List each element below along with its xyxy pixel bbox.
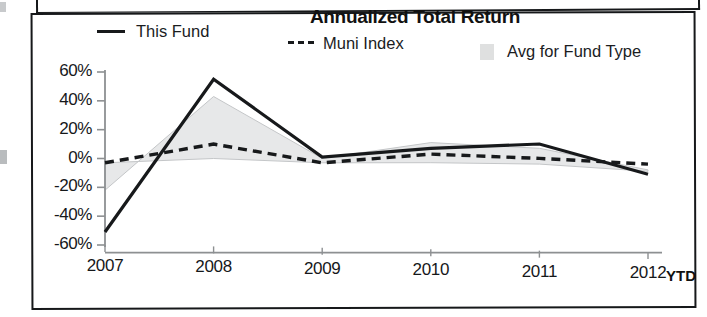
y-tick-label: 60% (30, 61, 92, 81)
y-tick-label: -40% (30, 205, 92, 225)
y-tick-label: 20% (30, 119, 92, 139)
series-avg-for-fund-type-band (105, 97, 648, 191)
x-tick-label: 2010 (394, 260, 468, 280)
x-tick-label: 2007 (68, 256, 142, 276)
y-tick-label: 0% (30, 148, 92, 168)
y-tick-label: 40% (30, 90, 92, 110)
x-tick-label: 2011 (502, 262, 576, 282)
x-tick-label: 2009 (285, 259, 359, 279)
y-tick-label: -60% (30, 234, 92, 254)
x-tick-label: 2008 (177, 257, 251, 277)
chart-screenshot: Annualized Total Return This Fund Muni I… (0, 0, 707, 317)
y-tick-label: -20% (30, 176, 92, 196)
x-axis-ytd-label: YTD (666, 267, 696, 284)
